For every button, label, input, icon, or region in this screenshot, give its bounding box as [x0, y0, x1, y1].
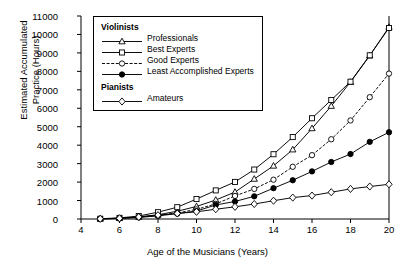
data-point-circle-filled: [329, 159, 334, 164]
data-point-diamond-open: [309, 192, 315, 199]
data-point-circle-filled: [367, 139, 372, 144]
data-point-square-open: [329, 97, 334, 102]
legend-key-square-open-icon: [101, 44, 143, 55]
data-point-circle-filled: [386, 130, 391, 135]
data-point-diamond-open: [251, 200, 257, 207]
legend-key-diamond-open-icon: [101, 93, 143, 104]
data-point-triangle-open: [119, 38, 125, 44]
data-point-circle-open: [252, 186, 257, 191]
legend-item-amateurs[interactable]: Amateurs: [101, 93, 256, 104]
legend-item-best-experts[interactable]: Best Experts: [101, 44, 256, 55]
series-line: [100, 184, 389, 219]
data-point-square-open: [386, 25, 391, 30]
data-point-circle-open: [367, 95, 372, 100]
legend-group-header: Violinists: [101, 22, 256, 32]
legend-label: Good Experts: [143, 55, 199, 66]
data-point-diamond-open: [347, 185, 353, 192]
data-point-diamond-open: [386, 181, 392, 188]
data-point-circle-filled: [290, 178, 295, 183]
data-point-square-open: [194, 197, 199, 202]
legend-item-least-accomplished-experts[interactable]: Least Accomplished Experts: [101, 66, 256, 77]
legend-key-circle-filled-icon: [101, 66, 143, 77]
legend-item-professionals[interactable]: Professionals: [101, 33, 256, 44]
data-point-circle-open: [232, 193, 237, 198]
data-point-diamond-open: [270, 197, 276, 204]
data-point-diamond-open: [119, 98, 125, 105]
legend-label: Amateurs: [143, 93, 183, 104]
legend-item-good-experts[interactable]: Good Experts: [101, 55, 256, 66]
data-point-diamond-open: [290, 194, 296, 201]
data-point-diamond-open: [367, 183, 373, 190]
legend-key-triangle-open-icon: [101, 33, 143, 44]
legend-label: Professionals: [143, 33, 198, 44]
data-point-diamond-open: [328, 189, 334, 196]
legend-label: Least Accomplished Experts: [143, 66, 254, 77]
data-point-square-open: [232, 179, 237, 184]
data-point-diamond-open: [232, 203, 238, 210]
legend-key-circle-open-icon: [101, 55, 143, 66]
data-point-square-open: [348, 79, 353, 84]
data-point-circle-open: [348, 118, 353, 123]
legend-label: Best Experts: [143, 44, 195, 55]
data-point-circle-open: [290, 164, 295, 169]
data-point-square-open: [271, 152, 276, 157]
data-point-circle-filled: [119, 72, 124, 77]
chart-legend: ViolinistsProfessionalsBest ExpertsGood …: [93, 16, 263, 111]
series-amateurs: [97, 181, 392, 223]
data-point-circle-filled: [309, 169, 314, 174]
data-point-triangle-open: [251, 176, 257, 182]
data-point-circle-filled: [348, 151, 353, 156]
data-point-square-open: [290, 135, 295, 140]
data-point-circle-filled: [271, 186, 276, 191]
chart-figure: Estimated Accumulated Practice (Hours) A…: [0, 0, 415, 266]
data-point-square-open: [252, 167, 257, 172]
data-point-circle-open: [386, 71, 391, 76]
data-point-square-open: [367, 53, 372, 58]
legend-group-header: Pianists: [101, 82, 256, 92]
data-point-circle-filled: [252, 194, 257, 199]
data-point-circle-open: [271, 177, 276, 182]
data-point-square-open: [175, 205, 180, 210]
data-point-circle-open: [309, 152, 314, 157]
data-point-square-open: [213, 188, 218, 193]
data-point-circle-open: [329, 137, 334, 142]
data-point-triangle-open: [270, 163, 276, 169]
data-point-square-open: [309, 116, 314, 121]
